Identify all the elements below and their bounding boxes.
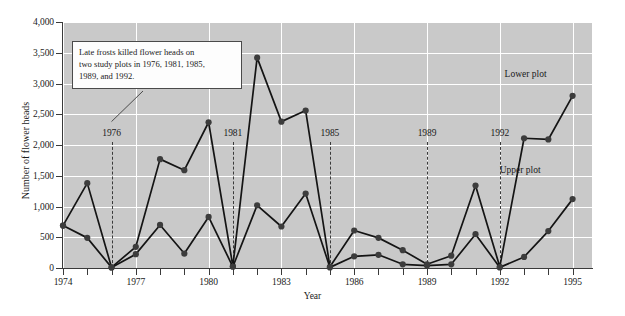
x-axis-tick — [354, 269, 355, 275]
y-axis-tick-label: 4,000 — [33, 17, 54, 27]
gridline-horizontal — [63, 207, 592, 208]
gridline-horizontal — [63, 114, 592, 115]
x-axis-tick — [548, 269, 549, 275]
gridline-vertical — [281, 22, 282, 268]
annotation-line-1: Late frosts killed flower heads on — [79, 46, 235, 58]
x-axis-title: Year — [0, 291, 625, 301]
gridline-horizontal — [63, 237, 592, 238]
x-axis-line — [62, 268, 593, 269]
x-axis-tick-label: 1974 — [54, 277, 73, 287]
x-axis-tick — [306, 269, 307, 275]
y-axis-tick — [56, 53, 63, 54]
x-axis-tick — [427, 269, 428, 275]
frost-year-dashed-line — [233, 142, 234, 268]
y-axis-tick-label: 2,500 — [33, 109, 54, 119]
frost-year-label: 1981 — [224, 128, 243, 138]
y-axis-tick — [56, 114, 63, 115]
frost-year-label: 1985 — [321, 128, 340, 138]
x-axis-tick-label: 1995 — [563, 277, 582, 287]
x-axis-tick — [378, 269, 379, 275]
x-axis-tick — [63, 269, 64, 275]
x-axis-tick-label: 1986 — [345, 277, 364, 287]
y-axis-tick — [56, 207, 63, 208]
x-axis-tick — [403, 269, 404, 275]
y-axis-title: Number of flower heads — [20, 81, 31, 221]
x-axis-tick — [87, 269, 88, 275]
y-axis-tick — [56, 145, 63, 146]
gridline-horizontal — [63, 176, 592, 177]
frost-year-label: 1976 — [102, 128, 121, 138]
y-axis-tick — [56, 237, 63, 238]
y-axis-tick-label: 3,000 — [33, 79, 54, 89]
y-axis-tick-label: 1,000 — [33, 202, 54, 212]
x-axis-tick — [476, 269, 477, 275]
y-axis-tick — [56, 84, 63, 85]
annotation-line-2: two study plots in 1976, 1981, 1985, — [79, 58, 235, 70]
x-axis-tick — [184, 269, 185, 275]
x-axis-tick — [500, 269, 501, 275]
x-axis-tick — [257, 269, 258, 275]
x-axis-tick-label: 1992 — [490, 277, 509, 287]
gridline-vertical — [573, 22, 574, 268]
y-axis-tick-label: 1,500 — [33, 171, 54, 181]
chart-figure: 05001,0001,5002,0002,5003,0003,5004,000 … — [0, 0, 625, 316]
y-axis-tick-label: 3,500 — [33, 48, 54, 58]
frost-year-dashed-line — [112, 142, 113, 268]
y-axis-tick-label: 0 — [49, 263, 54, 273]
x-axis-tick — [451, 269, 452, 275]
x-axis-tick — [233, 269, 234, 275]
x-axis-tick — [160, 269, 161, 275]
x-axis-tick — [281, 269, 282, 275]
frost-year-dashed-line — [427, 142, 428, 268]
y-axis-tick-label: 500 — [40, 232, 54, 242]
y-axis-tick — [56, 176, 63, 177]
y-axis-tick — [56, 22, 63, 23]
x-axis-tick — [209, 269, 210, 275]
gridline-vertical — [354, 22, 355, 268]
x-axis-tick-label: 1989 — [418, 277, 437, 287]
frost-year-label: 1989 — [418, 128, 437, 138]
frost-year-label: 1992 — [490, 128, 509, 138]
x-axis-tick — [524, 269, 525, 275]
x-axis-tick — [112, 269, 113, 275]
frost-year-dashed-line — [500, 142, 501, 268]
gridline-horizontal — [63, 145, 592, 146]
gridline-horizontal — [63, 22, 592, 23]
x-axis-tick — [330, 269, 331, 275]
x-axis-tick-label: 1980 — [199, 277, 218, 287]
x-axis-tick-label: 1977 — [126, 277, 145, 287]
frost-year-dashed-line — [330, 142, 331, 268]
series-label: Upper plot — [500, 165, 541, 175]
y-axis-tick — [56, 268, 63, 269]
x-axis-tick-label: 1983 — [272, 277, 291, 287]
gridline-vertical — [63, 22, 64, 268]
y-axis-tick-label: 2,000 — [33, 140, 54, 150]
series-label: Lower plot — [505, 69, 547, 79]
x-axis-tick — [136, 269, 137, 275]
x-axis-tick — [573, 269, 574, 275]
annotation-line-3: 1989, and 1992. — [79, 70, 235, 82]
annotation-callout: Late frosts killed flower heads on two s… — [72, 41, 242, 89]
